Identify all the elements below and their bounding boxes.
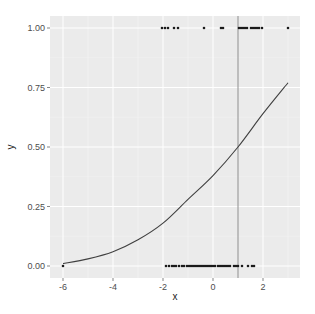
logistic-plot: 0.000.250.500.751.00 -6-4-202 x y [0,0,315,314]
y-tick-label: 0.25 [27,202,45,212]
data-point [167,27,170,30]
data-point [173,27,176,30]
x-tick-label: 2 [260,282,265,292]
y-tick-label: 0.00 [27,261,45,271]
data-point [183,265,186,268]
data-point [258,27,261,30]
y-tick-label: 0.50 [27,142,45,152]
y-axis: 0.000.250.500.751.00 [27,23,50,271]
y-tick-label: 1.00 [27,23,45,33]
data-point [203,27,206,30]
x-axis: -6-4-202 [59,278,266,292]
data-point [168,265,171,268]
data-point [261,27,264,30]
data-point [165,265,168,268]
y-axis-title: y [5,145,16,150]
data-point [229,265,232,268]
x-tick-label: -4 [109,282,117,292]
data-point [164,27,167,30]
data-point [222,27,225,30]
data-point [175,265,178,268]
data-point [247,265,250,268]
data-point [214,265,217,268]
y-tick-label: 0.75 [27,83,45,93]
x-tick-label: -6 [59,282,67,292]
x-tick-label: -2 [159,282,167,292]
data-point [62,265,65,268]
data-point [237,265,240,268]
data-point [246,27,249,30]
data-point [178,265,181,268]
data-point [161,27,164,30]
x-tick-label: 0 [210,282,215,292]
data-point [241,265,244,268]
data-point [253,265,256,268]
data-point [287,27,290,30]
x-axis-title: x [173,291,178,302]
data-point [177,27,180,30]
